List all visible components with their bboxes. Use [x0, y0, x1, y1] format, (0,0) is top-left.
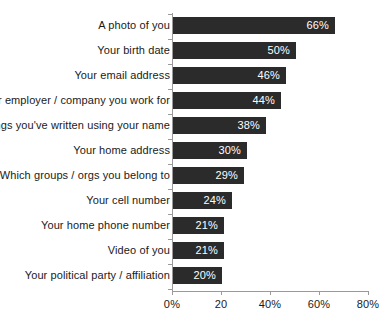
- bar-value-label: 24%: [203, 192, 226, 209]
- bar-row: Your birth date50%: [0, 39, 374, 64]
- category-label: Your birth date: [97, 42, 170, 59]
- bar: 21%: [173, 217, 224, 234]
- bar-row: Which groups / orgs you belong to29%: [0, 164, 374, 189]
- value-axis-tick-label: 20: [215, 298, 228, 310]
- value-axis-tick-label: 60%: [308, 298, 331, 310]
- bar-value-label: 30%: [218, 142, 241, 159]
- category-label: Your home phone number: [41, 217, 170, 234]
- bar-value-label: 38%: [237, 117, 260, 134]
- value-axis-tick-label: 40%: [259, 298, 282, 310]
- category-label: Your employer / company you work for: [0, 92, 170, 109]
- bar-value-label: 21%: [195, 242, 218, 259]
- bar-row: Video of you21%: [0, 239, 374, 264]
- bar-value-label: 20%: [193, 267, 216, 284]
- value-axis-tick: [172, 291, 173, 295]
- bar-row: Your employer / company you work for44%: [0, 89, 374, 114]
- category-label: Which groups / orgs you belong to: [0, 167, 170, 184]
- bar-value-label: 21%: [195, 217, 218, 234]
- bar: 46%: [173, 67, 286, 84]
- category-label: Your home address: [73, 142, 170, 159]
- category-axis-tick: [168, 289, 172, 290]
- bar: 44%: [173, 92, 281, 109]
- category-label: Your cell number: [86, 192, 170, 209]
- category-label: Your political party / affiliation: [25, 267, 170, 284]
- value-axis-tick: [221, 291, 222, 295]
- category-label: A photo of you: [98, 17, 170, 34]
- bar-row: Your cell number24%: [0, 189, 374, 214]
- value-axis-tick: [270, 291, 271, 295]
- value-axis-tick: [319, 291, 320, 295]
- bar-row: Your home address30%: [0, 139, 374, 164]
- bar-row: Your political party / affiliation20%: [0, 264, 374, 289]
- bar-value-label: 50%: [267, 42, 290, 59]
- bar: 66%: [173, 17, 335, 34]
- bar: 24%: [173, 192, 232, 209]
- bar: 30%: [173, 142, 247, 159]
- value-axis-tick-label: 80%: [357, 298, 379, 310]
- value-axis-tick: [368, 291, 369, 295]
- bar: 38%: [173, 117, 266, 134]
- value-axis-tick-label: 0%: [164, 298, 180, 310]
- bar: 20%: [173, 267, 222, 284]
- bar: 21%: [173, 242, 224, 259]
- category-label: Video of you: [108, 242, 170, 259]
- bar-row: A photo of you66%: [0, 14, 374, 39]
- bar-value-label: 66%: [306, 17, 329, 34]
- category-label: Things you've written using your name: [0, 117, 170, 134]
- bar: 29%: [173, 167, 244, 184]
- bar-value-label: 46%: [257, 67, 280, 84]
- bar-row: Things you've written using your name38%: [0, 114, 374, 139]
- bar-value-label: 44%: [252, 92, 275, 109]
- bar-value-label: 29%: [215, 167, 238, 184]
- bar-row: Your email address46%: [0, 64, 374, 89]
- bar: 50%: [173, 42, 296, 59]
- category-label: Your email address: [74, 67, 170, 84]
- bar-row: Your home phone number21%: [0, 214, 374, 239]
